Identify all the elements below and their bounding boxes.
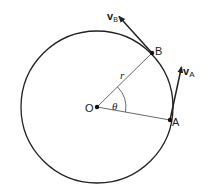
point-B (150, 51, 154, 55)
label-O: O (85, 102, 94, 114)
label-radius: r (120, 69, 125, 81)
label-A: A (172, 116, 180, 128)
label-B: B (155, 45, 162, 57)
label-vB: vB (107, 10, 118, 23)
velocity-vector-B (119, 17, 152, 54)
label-angle-theta: θ (112, 100, 118, 112)
angle-arc-theta (118, 87, 126, 112)
point-O (95, 105, 99, 109)
radius-line-OA (97, 107, 170, 120)
circular-motion-diagram: O A B r θ vB vA (0, 0, 221, 194)
label-vA: vA (183, 65, 195, 79)
